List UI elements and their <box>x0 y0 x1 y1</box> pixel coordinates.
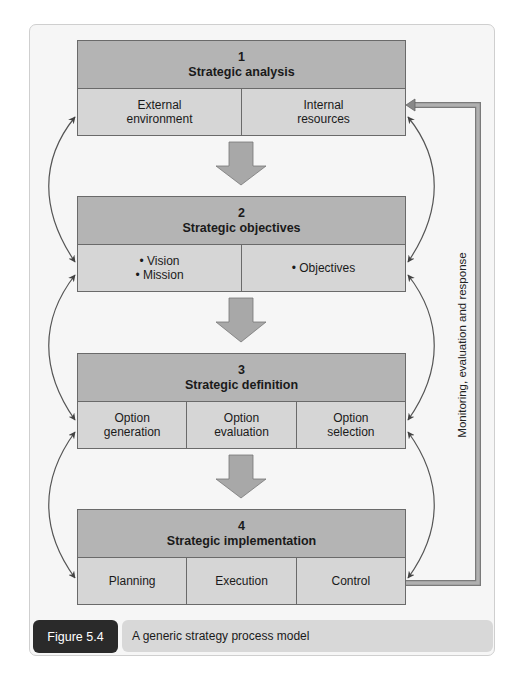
cell-line: Option <box>114 411 149 425</box>
stage-number: 2 <box>238 206 245 221</box>
right-curved-arrow-2-3 <box>408 275 434 420</box>
right-curved-arrow-3-4 <box>408 432 434 578</box>
stage-1-body: External environment Internal resources <box>78 89 405 135</box>
stage-number: 3 <box>238 363 245 378</box>
cell-option-selection: Option selection <box>296 402 405 448</box>
stage-3-box: 3 Strategic definition Option generation… <box>77 353 406 449</box>
cell-line: Execution <box>215 574 268 588</box>
stage-4-body: Planning Execution Control <box>78 558 405 604</box>
stage-title: Strategic definition <box>185 378 298 393</box>
figure-label: Figure 5.4 <box>33 620 118 653</box>
feedback-arrowhead <box>406 99 415 111</box>
left-curved-arrow-1-2 <box>49 117 75 262</box>
stage-number: 4 <box>238 519 245 534</box>
bullet-vision: • Vision <box>139 254 179 268</box>
cell-line: Option <box>224 411 259 425</box>
cell-line: Planning <box>109 574 156 588</box>
cell-line: Internal <box>303 98 343 112</box>
stage-2-header: 2 Strategic objectives <box>78 197 405 245</box>
cell-line: resources <box>297 112 350 126</box>
right-curved-arrow-1-2 <box>408 117 434 262</box>
stage-number: 1 <box>238 50 245 65</box>
stage-4-box: 4 Strategic implementation Planning Exec… <box>77 509 406 605</box>
stage-4-header: 4 Strategic implementation <box>78 510 405 558</box>
cell-line: environment <box>126 112 192 126</box>
cell-external-environment: External environment <box>78 89 241 135</box>
cell-vision-mission: • Vision • Mission <box>78 245 241 291</box>
left-curved-arrow-2-3 <box>49 275 75 420</box>
cell-execution: Execution <box>186 558 295 604</box>
stage-2-body: • Vision • Mission • Objectives <box>78 245 405 291</box>
cell-line: generation <box>104 425 161 439</box>
stage-1-box: 1 Strategic analysis External environmen… <box>77 40 406 136</box>
cell-line: selection <box>327 425 374 439</box>
down-arrow-2 <box>216 298 266 342</box>
feedback-label: Monitoring, evaluation and response <box>456 252 468 437</box>
stage-3-body: Option generation Option evaluation Opti… <box>78 402 405 448</box>
bullet-mission: • Mission <box>135 268 183 282</box>
stage-2-box: 2 Strategic objectives • Vision • Missio… <box>77 196 406 292</box>
cell-option-generation: Option generation <box>78 402 186 448</box>
stage-title: Strategic implementation <box>167 534 316 549</box>
cell-objectives: • Objectives <box>241 245 405 291</box>
stage-title: Strategic objectives <box>182 221 300 236</box>
cell-internal-resources: Internal resources <box>241 89 405 135</box>
stage-1-header: 1 Strategic analysis <box>78 41 405 89</box>
cell-option-evaluation: Option evaluation <box>186 402 295 448</box>
cell-planning: Planning <box>78 558 186 604</box>
figure-caption: A generic strategy process model <box>122 620 493 652</box>
left-curved-arrow-3-4 <box>49 432 75 578</box>
down-arrow-3 <box>216 455 266 498</box>
cell-line: Option <box>333 411 368 425</box>
cell-line: evaluation <box>214 425 269 439</box>
cell-control: Control <box>296 558 405 604</box>
stage-title: Strategic analysis <box>188 65 294 80</box>
stage-3-header: 3 Strategic definition <box>78 354 405 402</box>
bullet-objectives: • Objectives <box>292 261 356 275</box>
down-arrow-1 <box>216 142 266 185</box>
cell-line: Control <box>331 574 370 588</box>
cell-line: External <box>137 98 181 112</box>
